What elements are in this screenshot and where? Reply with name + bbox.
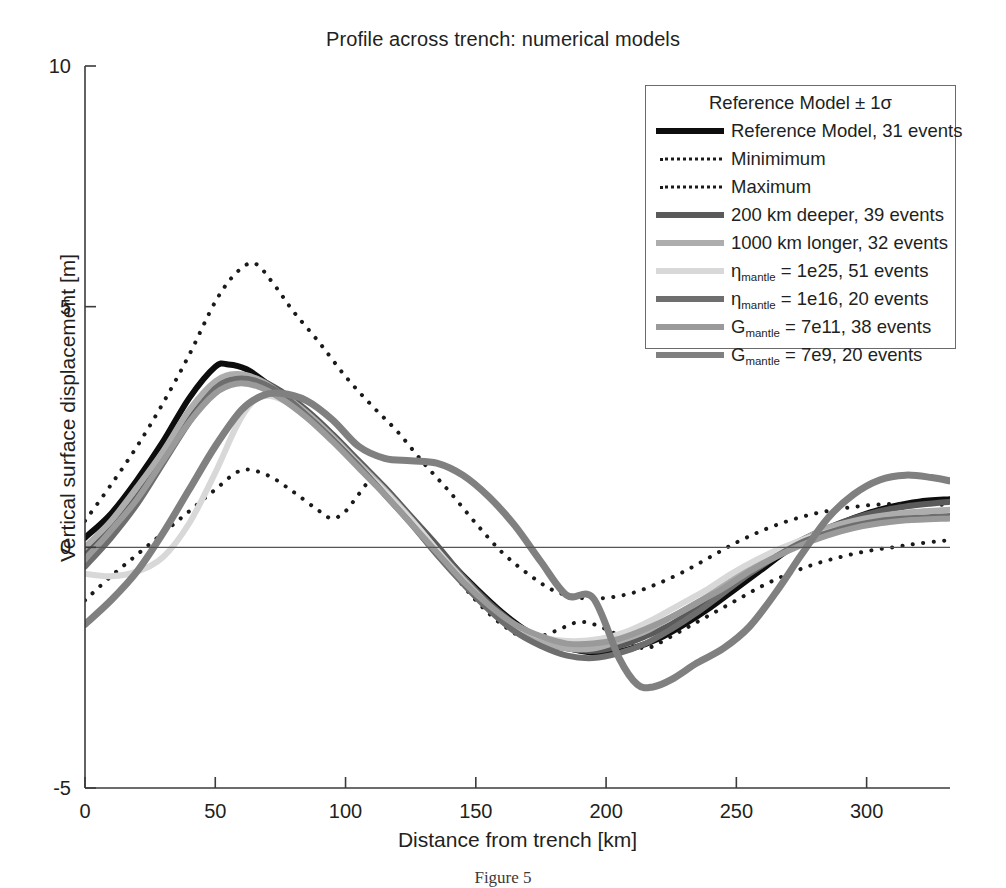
legend-item[interactable]: 1000 km longer, 32 events bbox=[646, 229, 955, 257]
series-line bbox=[85, 376, 950, 651]
series-line bbox=[85, 363, 950, 653]
legend-item[interactable]: Gmantle = 7e11, 38 events bbox=[646, 313, 955, 341]
x-tick-label: 300 bbox=[850, 800, 883, 822]
y-tick-label: -5 bbox=[53, 777, 71, 799]
legend-swatch-solid-icon bbox=[652, 257, 726, 285]
legend-item[interactable]: ηmantle = 1e25, 51 events bbox=[646, 257, 955, 285]
series-line bbox=[85, 378, 950, 658]
y-axis-title: Vertical surface displacement [m] bbox=[56, 148, 80, 668]
legend-item[interactable]: Minimimum bbox=[646, 145, 955, 173]
legend-swatch-solid-icon bbox=[652, 341, 726, 369]
legend-swatch-solid-icon bbox=[652, 201, 726, 229]
legend-item-label: Gmantle = 7e11, 38 events bbox=[731, 318, 931, 337]
legend-box: Reference Model ± 1σ Reference Model, 31… bbox=[645, 85, 956, 349]
x-tick-label: 150 bbox=[459, 800, 492, 822]
legend-item-label: 200 km deeper, 39 events bbox=[731, 206, 944, 225]
figure-caption: Figure 5 bbox=[0, 868, 1006, 888]
legend-item-label: ηmantle = 1e25, 51 events bbox=[731, 262, 928, 281]
legend-item-label: Minimimum bbox=[731, 150, 826, 169]
legend-item-label: Reference Model, 31 events bbox=[731, 122, 962, 141]
legend-header-row: Reference Model ± 1σ bbox=[646, 89, 955, 117]
series-line bbox=[85, 374, 950, 649]
x-tick-label: 50 bbox=[204, 800, 226, 822]
x-tick-label: 200 bbox=[589, 800, 622, 822]
legend-item[interactable]: Gmantle = 7e9, 20 events bbox=[646, 341, 955, 369]
legend-items: Reference Model, 31 eventsMinimimumMaxim… bbox=[646, 117, 955, 369]
legend-item[interactable]: Maximum bbox=[646, 173, 955, 201]
legend-header-label: Reference Model ± 1σ bbox=[709, 94, 892, 113]
legend-item-label: Maximum bbox=[731, 178, 811, 197]
legend-item[interactable]: Reference Model, 31 events bbox=[646, 117, 955, 145]
legend-swatch-dotted-icon bbox=[652, 145, 726, 173]
legend-swatch-solid-icon bbox=[652, 117, 726, 145]
x-axis-title: Distance from trench [km] bbox=[85, 828, 950, 852]
legend-swatch-solid-icon bbox=[652, 285, 726, 313]
legend-swatch-solid-icon bbox=[652, 313, 726, 341]
legend-swatch-solid-icon bbox=[652, 229, 726, 257]
figure-root: Profile across trench: numerical models … bbox=[0, 0, 1006, 888]
x-tick-label: 100 bbox=[329, 800, 362, 822]
legend-item-label: Gmantle = 7e9, 20 events bbox=[731, 346, 922, 365]
legend-item-label: ηmantle = 1e16, 20 events bbox=[731, 290, 928, 309]
legend-item[interactable]: ηmantle = 1e16, 20 events bbox=[646, 285, 955, 313]
legend-item[interactable]: 200 km deeper, 39 events bbox=[646, 201, 955, 229]
x-tick-label: 250 bbox=[720, 800, 753, 822]
x-tick-label: 0 bbox=[79, 800, 90, 822]
legend-item-label: 1000 km longer, 32 events bbox=[731, 234, 948, 253]
series-line bbox=[85, 396, 950, 641]
legend-swatch-dotted-icon bbox=[652, 173, 726, 201]
y-tick-label: 10 bbox=[49, 55, 71, 77]
series-line bbox=[85, 383, 950, 644]
